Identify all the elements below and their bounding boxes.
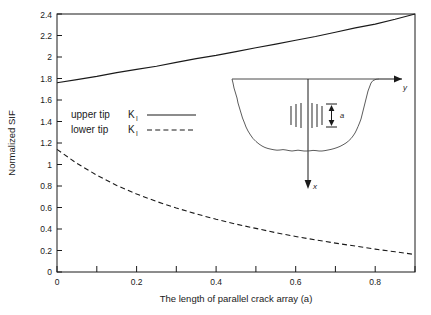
legend-subscript-upper-tip: I <box>136 115 138 122</box>
y-tick-label: 1 <box>47 160 52 170</box>
y-tick-label: 1.2 <box>40 138 52 148</box>
legend-label-upper-tip: upper tip <box>71 109 110 120</box>
y-tick-label: 0.2 <box>40 246 52 256</box>
x-tick-label: 0.2 <box>131 277 143 287</box>
inset-dimension-label: a <box>340 111 344 120</box>
y-tick-label: 0.6 <box>40 203 52 213</box>
y-tick-label: 1.8 <box>40 74 52 84</box>
x-tick-label: 0.6 <box>290 277 302 287</box>
y-tick-label: 1.4 <box>40 117 52 127</box>
x-tick-label: 0 <box>55 277 60 287</box>
y-tick-label: 2 <box>47 52 52 62</box>
x-tick-label: 0.4 <box>210 277 222 287</box>
legend-symbol-lower-tip: K <box>128 124 135 135</box>
y-tick-label: 0.4 <box>40 224 52 234</box>
y-tick-label: 0.8 <box>40 181 52 191</box>
legend-label-lower-tip: lower tip <box>71 124 109 135</box>
figure-background <box>0 0 431 315</box>
legend-subscript-lower-tip: I <box>136 130 138 137</box>
y-tick-label: 1.6 <box>40 95 52 105</box>
x-tick-label: 0.8 <box>369 277 381 287</box>
chart-canvas: 0 0.2 0.4 0.6 0.8 1 1.2 1.4 1.6 1.8 2 2.… <box>0 0 431 315</box>
y-tick-label: 2.4 <box>40 10 52 20</box>
x-axis-title: The length of parallel crack array (a) <box>160 293 313 304</box>
y-axis-title: Normalized SIF <box>6 110 17 176</box>
y-tick-label: 2.2 <box>40 31 52 41</box>
chart-figure: 0 0.2 0.4 0.6 0.8 1 1.2 1.4 1.6 1.8 2 2.… <box>0 0 431 315</box>
legend-symbol-upper-tip: K <box>128 109 135 120</box>
y-tick-label: 0 <box>47 267 52 277</box>
